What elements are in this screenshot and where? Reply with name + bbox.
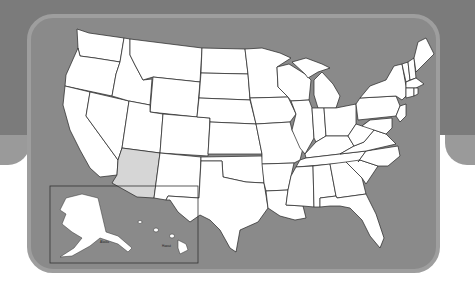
hawaii-island-kauai[interactable]: [138, 221, 142, 224]
state-kansas[interactable]: [208, 122, 262, 154]
us-map: Alaska Hawaii: [0, 0, 475, 287]
state-florida[interactable]: [320, 194, 384, 248]
state-michigan-lower[interactable]: [314, 72, 340, 108]
hawaii-island-oahu[interactable]: [154, 228, 159, 232]
state-south-dakota[interactable]: [199, 73, 250, 100]
hawaii-island-big[interactable]: [178, 240, 188, 254]
state-wyoming[interactable]: [150, 77, 200, 117]
state-pennsylvania[interactable]: [356, 96, 400, 120]
state-new-mexico[interactable]: [154, 153, 201, 200]
state-iowa[interactable]: [250, 97, 296, 124]
state-new-york[interactable]: [360, 64, 406, 100]
state-north-dakota[interactable]: [201, 48, 248, 74]
state-alaska[interactable]: [60, 194, 132, 257]
state-rhode-island[interactable]: [414, 88, 418, 96]
hawaii-island-maui[interactable]: [170, 234, 175, 238]
state-maine[interactable]: [414, 38, 434, 72]
state-colorado[interactable]: [160, 114, 210, 156]
state-montana[interactable]: [130, 39, 202, 82]
alaska-label: Alaska: [100, 240, 109, 244]
state-arizona[interactable]: [112, 148, 160, 198]
hawaii-label: Hawaii: [162, 244, 171, 248]
state-connecticut[interactable]: [406, 88, 414, 98]
